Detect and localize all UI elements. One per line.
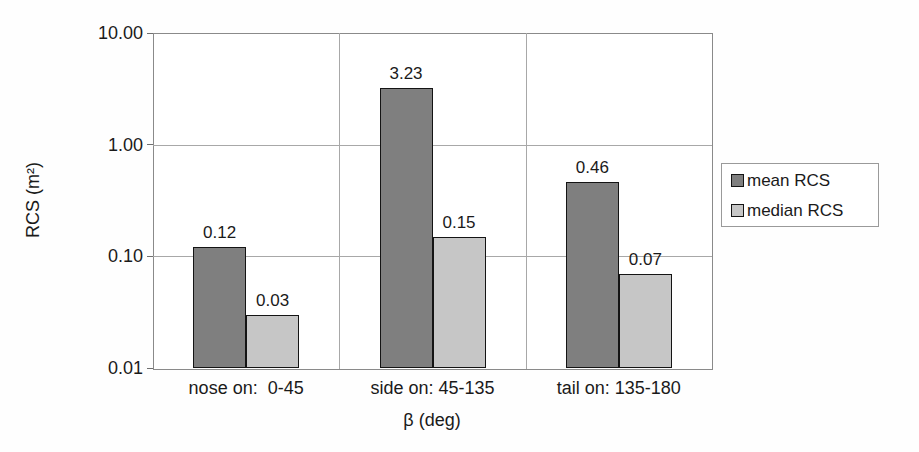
mean-rcs-swatch-icon [731,174,744,187]
median-rcs-swatch-icon [731,204,744,217]
bar-value-label: 0.15 [414,213,504,233]
bar-value-label: 0.03 [228,291,318,311]
legend-label-median-rcs: median RCS [747,201,843,220]
rcs-bar-chart: RCS (m²) β (deg) mean RCS median RCS 10.… [0,0,919,452]
bar-value-label: 0.46 [547,158,637,178]
bar-value-label: 0.12 [175,223,265,243]
legend-label-mean-rcs: mean RCS [747,171,830,190]
bar-mean-rcs [566,182,619,368]
panel-divider [526,33,527,369]
legend: mean RCS median RCS [721,163,879,227]
bar-value-label: 0.07 [600,250,690,270]
category-label: side on: 45-135 [340,377,526,399]
ytick-mark [147,368,153,369]
x-axis-title: β (deg) [332,408,532,432]
y-axis-title: RCS (m²) [22,130,44,270]
ytick-label: 0.01 [73,358,143,378]
ytick-label: 1.00 [73,135,143,155]
category-label: nose on: 0-45 [153,377,339,399]
bar-median-rcs [246,315,299,368]
bar-median-rcs [619,274,672,368]
ytick-label: 0.10 [73,246,143,266]
bar-median-rcs [433,237,486,368]
gridline [153,145,712,146]
ytick-mark [147,33,153,34]
legend-item-mean-rcs: mean RCS [731,171,878,190]
category-label: tail on: 135-180 [526,377,712,399]
panel-divider [339,33,340,369]
legend-item-median-rcs: median RCS [731,201,878,220]
ytick-label: 10.00 [73,23,143,43]
bar-value-label: 3.23 [361,64,451,84]
